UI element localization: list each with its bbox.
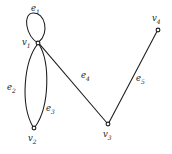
edge-label-e3: e3	[46, 104, 55, 115]
vertex-label-v2: v2	[28, 134, 37, 145]
vertex-node-v4	[156, 28, 160, 32]
edge-label-e2: e2	[7, 83, 16, 94]
vertex-node-v3	[106, 122, 110, 126]
edge-e5-path	[109, 31, 157, 123]
vertex-node-v2	[32, 126, 36, 130]
edge-e2-path	[25, 44, 37, 127]
multigraph-figure: e1 e2 e3 e4 e5 v1 v2 v3 v4	[0, 0, 172, 154]
edge-label-e4: e4	[81, 71, 90, 82]
vertex-node-v1	[36, 41, 40, 45]
edge-label-e5: e5	[136, 74, 145, 85]
vertex-label-v3: v3	[103, 130, 112, 141]
vertex-label-v4: v4	[152, 14, 161, 25]
edge-paths	[25, 13, 157, 127]
vertex-label-v1: v1	[22, 38, 31, 49]
edge-label-e1: e1	[31, 4, 40, 15]
